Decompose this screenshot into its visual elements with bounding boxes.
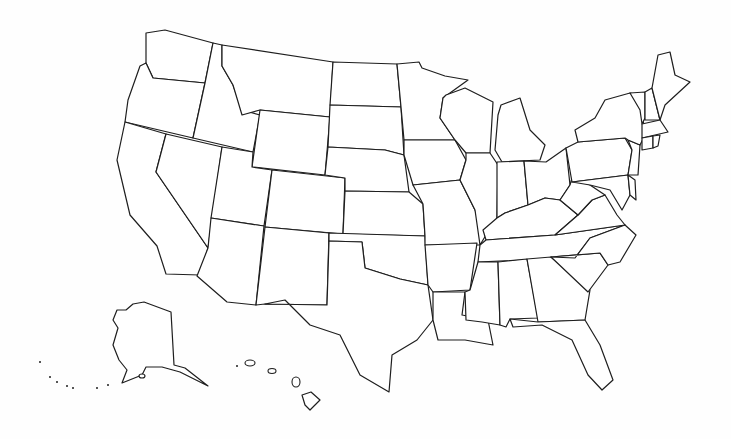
state-ri[interactable]	[653, 135, 660, 148]
state-me[interactable]	[652, 52, 690, 120]
state-co[interactable]	[265, 170, 345, 234]
state-mi[interactable]	[495, 98, 545, 162]
aleutian-2	[49, 376, 51, 378]
aleutian-3	[56, 381, 58, 383]
state-fl[interactable]	[510, 319, 613, 390]
state-ct[interactable]	[642, 136, 653, 150]
hi-kauai	[245, 360, 255, 366]
aleutian-1	[39, 361, 41, 363]
state-ia[interactable]	[404, 140, 466, 185]
aleutian-7	[107, 384, 109, 386]
aleutian-5	[72, 387, 74, 389]
states-layer	[113, 30, 690, 410]
state-ar[interactable]	[425, 243, 477, 292]
hi-maui	[292, 377, 300, 387]
state-wy[interactable]	[252, 110, 330, 175]
us-states-map	[0, 0, 731, 439]
aleutian-4	[66, 385, 68, 387]
hi-niihau	[236, 365, 238, 367]
state-nd[interactable]	[330, 62, 401, 107]
us-map-container: United States blank outline map	[0, 0, 731, 439]
state-ak[interactable]	[113, 302, 208, 386]
ak-kodiak	[139, 374, 145, 378]
state-ks[interactable]	[343, 191, 425, 236]
aleutian-6	[96, 387, 98, 389]
state-nm[interactable]	[256, 227, 329, 305]
state-hi[interactable]	[302, 392, 320, 410]
state-wa[interactable]	[146, 30, 213, 83]
hi-oahu	[268, 369, 276, 374]
